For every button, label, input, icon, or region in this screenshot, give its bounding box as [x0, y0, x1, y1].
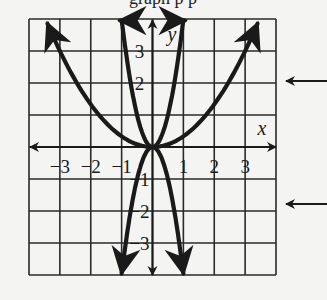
y-tick-label: −3 [129, 233, 149, 254]
x-tick-label: −2 [81, 156, 101, 177]
x-tick-label: −3 [50, 156, 70, 177]
x-axis-label: x [257, 117, 267, 139]
x-tick-label: 2 [210, 156, 220, 177]
x-tick-label: 1 [179, 156, 189, 177]
y-axis-label: y [166, 23, 177, 46]
x-tick-label: 3 [240, 156, 250, 177]
y-tick-label: −2 [129, 201, 149, 222]
graph-figure: graph p p −3−2−112332−1−2−3 x y [0, 0, 327, 300]
y-tick-label: 3 [135, 41, 145, 62]
y-tick-label: 2 [135, 73, 145, 94]
cropped-header-text: graph p p [129, 0, 197, 8]
y-tick-label: −1 [129, 169, 149, 190]
